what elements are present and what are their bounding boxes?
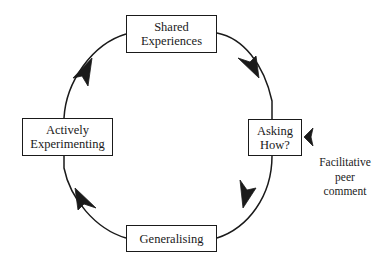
- arrowhead-bottom-left-icon: [75, 188, 96, 210]
- node-generalising-line-1: Generalising: [140, 232, 204, 246]
- annotation-facilitative-peer-comment: Facilitative peer comment: [303, 155, 387, 199]
- arc-actively-to-shared: [64, 34, 126, 118]
- node-shared-experiences: Shared Experiences: [126, 15, 217, 53]
- arrowhead-facilitative-comment-icon: [304, 128, 313, 146]
- cycle-diagram: Shared Experiences Asking How? Generalis…: [0, 0, 391, 266]
- annotation-line-1: Facilitative: [303, 155, 387, 170]
- arc-generalising-to-actively: [64, 156, 126, 238]
- annotation-line-2: peer: [303, 170, 387, 185]
- node-actively-experimenting: Actively Experimenting: [22, 118, 113, 156]
- arc-shared-to-asking: [217, 33, 272, 119]
- node-asking-how-line-1: Asking: [257, 124, 293, 138]
- node-actively-experimenting-line-1: Actively: [46, 123, 89, 137]
- node-generalising: Generalising: [126, 225, 217, 252]
- annotation-line-3: comment: [303, 184, 387, 199]
- node-asking-how-line-2: How?: [260, 138, 290, 152]
- node-asking-how: Asking How?: [248, 119, 302, 156]
- node-shared-experiences-line-2: Experiences: [141, 34, 202, 48]
- arrowhead-bottom-right-icon: [240, 180, 256, 208]
- arrowhead-top-left-icon: [73, 58, 92, 86]
- node-shared-experiences-line-1: Shared: [154, 20, 189, 34]
- arrowhead-top-right-icon: [238, 56, 259, 78]
- node-actively-experimenting-line-2: Experimenting: [30, 137, 104, 151]
